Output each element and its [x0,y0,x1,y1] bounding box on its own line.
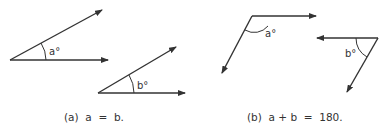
caption-b: (b) a + b = 180. [247,111,343,123]
angle-a-obtuse-label: a° [265,28,276,39]
angle-b-acute-label: b° [345,48,356,59]
angle-b-label: b° [137,80,148,91]
angle-a-label: a° [49,46,60,57]
caption-a: (a) a = b. [64,111,124,123]
figure-a [10,10,185,93]
angle-b-acute [317,38,378,92]
angle-diagram: a° b° (a) a = b. a° b° (b) a + b = 180. [0,0,386,126]
angle-a-obtuse [222,16,316,73]
diagram: a° b° (a) a = b. a° b° (b) a + b = 180. [0,0,386,126]
